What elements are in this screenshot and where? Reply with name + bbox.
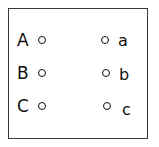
matching-row: C c bbox=[9, 95, 147, 117]
circle-bullet-icon[interactable] bbox=[101, 36, 109, 44]
circle-bullet-icon[interactable] bbox=[102, 69, 110, 77]
right-option-c[interactable]: c bbox=[103, 95, 129, 117]
right-option-a[interactable]: a bbox=[101, 29, 128, 51]
right-option-label: c bbox=[122, 101, 131, 118]
left-option-label: B bbox=[17, 65, 29, 82]
right-option-label: a bbox=[118, 32, 128, 49]
left-option-b[interactable]: B bbox=[17, 62, 46, 84]
matching-row: B b bbox=[9, 62, 147, 84]
right-option-b[interactable]: b bbox=[102, 62, 129, 84]
circle-bullet-icon[interactable] bbox=[103, 102, 111, 110]
circle-bullet-icon[interactable] bbox=[38, 69, 46, 77]
circle-bullet-icon[interactable] bbox=[38, 36, 46, 44]
matching-diagram-box: A a B b C c bbox=[8, 8, 148, 139]
right-option-label: b bbox=[119, 66, 129, 83]
circle-bullet-icon[interactable] bbox=[38, 102, 46, 110]
left-option-a[interactable]: A bbox=[17, 29, 46, 51]
left-option-c[interactable]: C bbox=[17, 95, 46, 117]
left-option-label: A bbox=[17, 32, 29, 49]
left-option-label: C bbox=[17, 98, 29, 115]
matching-row: A a bbox=[9, 29, 147, 51]
